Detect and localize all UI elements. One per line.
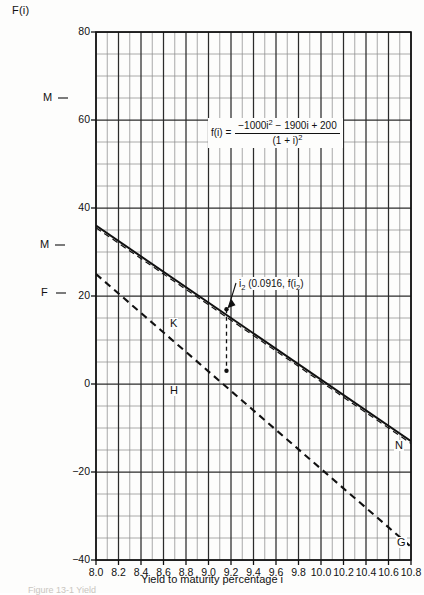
axis-ticks	[91, 32, 411, 565]
point-label-N-right: N	[394, 440, 404, 451]
formula-numerator: −1000i2 − 1900i + 200	[235, 120, 339, 134]
formula-numerator-b: − 1900i + 200	[273, 120, 337, 131]
formula-fraction: −1000i2 − 1900i + 200(1 + i)2	[235, 120, 339, 146]
marker-H	[224, 369, 228, 373]
formula-denominator-a: (1 + i)	[272, 135, 298, 146]
y-tick-60: 60	[46, 114, 90, 124]
intersection-annotation: i2 (0.0916, f(i2)	[237, 277, 306, 290]
formula-denominator: (1 + i)2	[235, 134, 339, 147]
y-tick-20: 20	[46, 290, 90, 300]
formula-denominator-exponent: 2	[298, 132, 302, 141]
point-label-G-right: G	[396, 537, 407, 548]
y-tick-0: 0	[46, 378, 90, 388]
formula-numerator-a: −1000i	[238, 120, 268, 131]
point-label-M-upper: M	[42, 92, 53, 103]
annotation-text: (0.0916, f(i	[245, 278, 296, 289]
formula-box: f(i) =−1000i2 − 1900i + 200(1 + i)2	[208, 118, 343, 148]
y-tick-40: 40	[46, 202, 90, 212]
grid-major	[96, 32, 411, 560]
annotation-suffix: )	[300, 278, 303, 289]
y-tick--40: −40	[46, 554, 90, 564]
x-axis-label: Yield to maturity percentage i	[0, 573, 424, 585]
formula-lhs: f(i) =	[211, 127, 235, 139]
y-tick-80: 80	[46, 26, 90, 36]
point-label-K-point: K	[169, 318, 178, 329]
figure-caption: Figure 13-1 Yield	[28, 585, 96, 595]
y-tick--20: −20	[46, 466, 90, 476]
point-label-F-left: F	[40, 287, 49, 298]
point-label-M-lower: M	[39, 239, 50, 250]
point-label-H-point: H	[169, 385, 179, 396]
